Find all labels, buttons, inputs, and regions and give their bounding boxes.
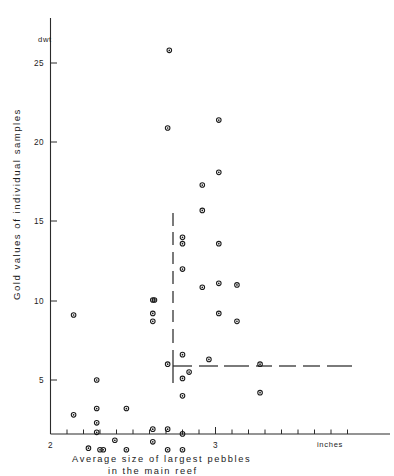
data-point	[258, 390, 263, 395]
data-point	[71, 413, 76, 418]
y-tick-label-25: 25	[34, 59, 44, 68]
data-point	[94, 406, 99, 411]
data-point	[113, 438, 118, 443]
x-tick-label-3: 3	[213, 441, 218, 450]
y-axis-title: Gold values of individual samples	[11, 108, 22, 300]
data-point	[217, 311, 222, 316]
data-point	[180, 235, 185, 240]
data-point	[151, 319, 156, 324]
y-axis-unit-label: dwt	[38, 35, 52, 44]
data-point	[180, 394, 185, 399]
data-point	[94, 421, 99, 426]
data-point	[200, 285, 205, 290]
data-point	[187, 370, 192, 375]
data-point	[217, 118, 222, 123]
data-point	[165, 126, 170, 131]
data-point	[217, 170, 222, 175]
data-point	[165, 447, 170, 452]
y-tick-label-20: 20	[34, 138, 44, 147]
data-point	[86, 446, 91, 451]
data-point	[101, 447, 106, 452]
data-point	[151, 427, 156, 432]
data-point	[180, 241, 185, 246]
data-point	[180, 376, 185, 381]
x-axis-title-line1: Average size of largest pebbles	[72, 454, 251, 464]
data-point	[180, 352, 185, 357]
y-tick-label-15: 15	[34, 217, 44, 226]
data-point	[167, 48, 172, 53]
data-point	[200, 208, 205, 213]
data-point	[200, 183, 205, 188]
data-point	[207, 357, 212, 362]
data-point	[165, 427, 170, 432]
x-axis-title-line2: in the main reef	[108, 466, 198, 476]
data-point	[217, 241, 222, 246]
y-axis-ticks	[51, 63, 58, 380]
data-point	[235, 283, 240, 288]
data-point	[235, 319, 240, 324]
plot-canvas: 25 20 15 10 5 dwt	[0, 0, 394, 476]
data-point	[124, 447, 129, 452]
data-point	[151, 311, 156, 316]
data-point	[165, 362, 170, 367]
data-point	[124, 406, 129, 411]
data-points-layer	[71, 48, 262, 452]
y-tick-label-5: 5	[39, 376, 44, 385]
data-point	[180, 447, 185, 452]
x-tick-label-2: 2	[48, 441, 53, 450]
data-point	[71, 313, 76, 318]
scatter-plot-figure: 25 20 15 10 5 dwt	[0, 0, 394, 476]
data-point	[151, 440, 156, 445]
data-point	[217, 281, 222, 286]
data-point	[94, 378, 99, 383]
data-point	[180, 267, 185, 272]
x-axis-unit-label: inches	[317, 440, 343, 449]
y-tick-label-10: 10	[34, 297, 44, 306]
